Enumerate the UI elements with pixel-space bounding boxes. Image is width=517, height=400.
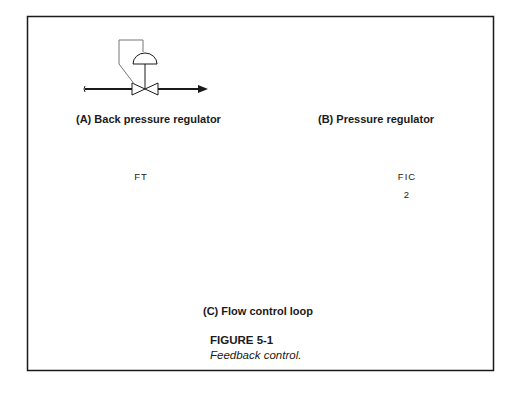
diaphragm-actuator-icon [133, 53, 157, 64]
valve-body-icon [145, 83, 158, 95]
figure-number: FIGURE 5-1 [210, 334, 273, 346]
figure-frame [28, 17, 494, 371]
panel-a-back-pressure-regulator [84, 40, 208, 95]
valve-body-icon [132, 83, 145, 95]
fic-loop-number: 2 [392, 189, 422, 200]
fic-tag: FIC [392, 171, 422, 182]
pipe-break-icon [84, 86, 85, 92]
panel-b-label: (B) Pressure regulator [318, 113, 434, 125]
panel-c-label: (C) Flow control loop [203, 305, 313, 317]
flow-arrow-icon [198, 85, 208, 93]
figure-caption: Feedback control. [210, 349, 301, 361]
panel-a-label: (A) Back pressure regulator [76, 113, 221, 125]
ft-tag: FT [126, 171, 156, 182]
